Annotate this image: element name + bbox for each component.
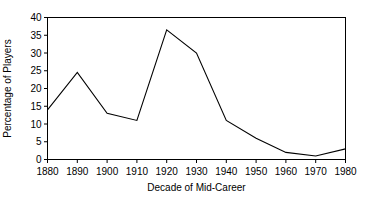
x-axis-title: Decade of Mid-Career — [147, 182, 246, 193]
x-tick-label: 1880 — [36, 166, 59, 177]
x-tick-label: 1960 — [275, 166, 298, 177]
x-tick-label: 1890 — [66, 166, 89, 177]
y-tick-label: 15 — [30, 101, 42, 112]
x-tick-label: 1950 — [245, 166, 268, 177]
data-series-line — [48, 30, 346, 156]
y-axis-title: Percentage of Players — [2, 39, 13, 137]
plot-frame — [48, 18, 346, 160]
y-tick-label: 35 — [30, 30, 42, 41]
x-tick-label: 1910 — [126, 166, 149, 177]
x-tick-label: 1940 — [215, 166, 238, 177]
x-tick-label: 1930 — [185, 166, 208, 177]
x-tick-label: 1920 — [156, 166, 179, 177]
chart-canvas: 0510152025303540188018901900191019201930… — [0, 0, 370, 204]
y-tick-label: 25 — [30, 65, 42, 76]
line-chart: 0510152025303540188018901900191019201930… — [0, 0, 370, 204]
y-tick-label: 5 — [36, 136, 42, 147]
x-tick-label: 1980 — [334, 166, 357, 177]
y-tick-label: 0 — [36, 154, 42, 165]
y-tick-label: 40 — [30, 12, 42, 23]
y-tick-label: 10 — [30, 119, 42, 130]
x-tick-label: 1900 — [96, 166, 119, 177]
y-tick-label: 20 — [30, 83, 42, 94]
x-tick-label: 1970 — [305, 166, 328, 177]
y-tick-label: 30 — [30, 48, 42, 59]
